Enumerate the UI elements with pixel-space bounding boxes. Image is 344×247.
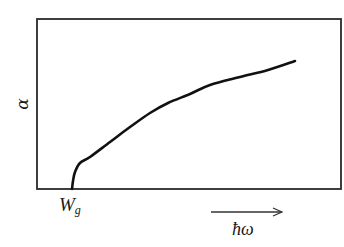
band-gap-marker: Wg [59, 194, 81, 221]
plot-frame [37, 19, 341, 189]
chart-canvas [0, 0, 344, 247]
x-axis-label: ħω [232, 218, 254, 240]
band-gap-subscript: g [75, 203, 81, 217]
absorption-chart: α Wg ħω [0, 0, 344, 247]
band-gap-symbol: W [59, 194, 75, 215]
absorption-curve [72, 61, 295, 189]
y-axis-label: α [12, 94, 32, 114]
x-axis-arrow [211, 208, 282, 216]
